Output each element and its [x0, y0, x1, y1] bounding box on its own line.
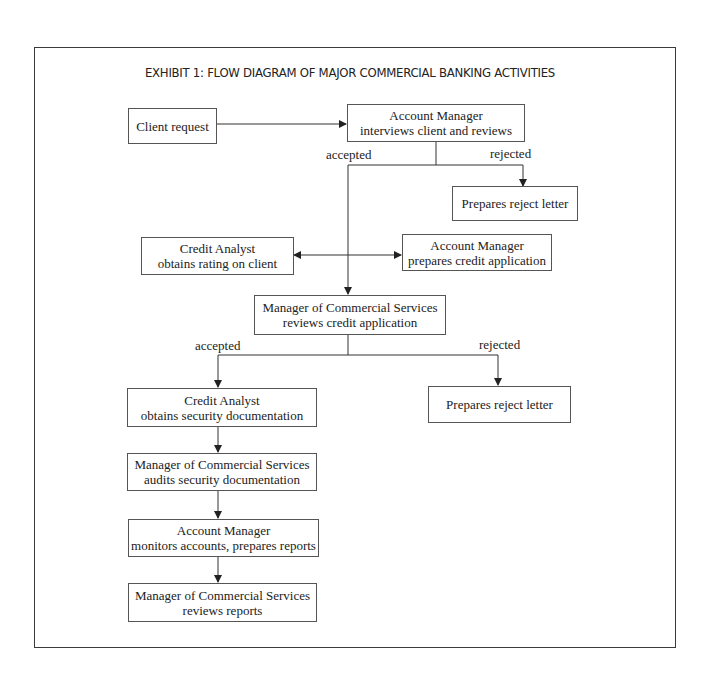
edge-label-accepted-2: accepted — [195, 338, 240, 354]
edge-label-rejected-1: rejected — [490, 146, 531, 162]
node-role: Credit Analyst — [184, 393, 259, 408]
node-text: Prepares reject letter — [446, 397, 553, 412]
node-reject-letter-2: Prepares reject letter — [428, 386, 571, 423]
edge-label-rejected-2: rejected — [479, 337, 520, 353]
node-action: monitors accounts, prepares reports — [131, 538, 316, 553]
node-text: Client request — [136, 119, 209, 134]
node-action: reviews credit application — [283, 315, 417, 330]
node-role: Manager of Commercial Services — [135, 588, 310, 603]
node-credit-analyst-security: Credit Analyst obtains security document… — [127, 388, 317, 427]
node-am-interviews: Account Manager interviews client and re… — [347, 104, 525, 142]
node-action: obtains rating on client — [158, 256, 278, 271]
node-role: Manager of Commercial Services — [262, 300, 437, 315]
node-action: audits security documentation — [144, 472, 300, 487]
node-am-prepares: Account Manager prepares credit applicat… — [402, 234, 552, 271]
node-action: obtains security documentation — [141, 408, 303, 423]
node-mcs-audits: Manager of Commercial Services audits se… — [127, 453, 317, 491]
node-role: Manager of Commercial Services — [134, 457, 309, 472]
node-text: Prepares reject letter — [462, 196, 569, 211]
node-mcs-reviews-application: Manager of Commercial Services reviews c… — [254, 295, 446, 335]
node-am-monitors: Account Manager monitors accounts, prepa… — [128, 519, 319, 557]
connector-lines — [0, 0, 715, 680]
node-role: Credit Analyst — [180, 241, 255, 256]
edge-label-accepted-1: accepted — [326, 147, 371, 163]
node-role: Account Manager — [177, 523, 271, 538]
node-role: Account Manager — [389, 108, 483, 123]
node-mcs-reviews-reports: Manager of Commercial Services reviews r… — [128, 583, 317, 622]
node-role: Account Manager — [430, 238, 524, 253]
node-reject-letter-1: Prepares reject letter — [452, 186, 578, 221]
node-action: reviews reports — [183, 603, 263, 618]
node-action: prepares credit application — [408, 253, 546, 268]
node-client-request: Client request — [128, 108, 217, 144]
node-credit-analyst-rating: Credit Analyst obtains rating on client — [141, 237, 294, 275]
node-action: interviews client and reviews — [360, 123, 512, 138]
